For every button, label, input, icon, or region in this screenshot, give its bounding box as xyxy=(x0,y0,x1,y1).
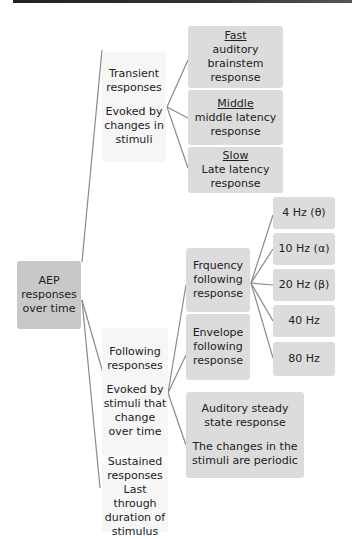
slow-label: Late latency response xyxy=(192,163,280,191)
freq-40hz-label: 40 Hz xyxy=(288,314,320,328)
slow-node: Slow Late latency response xyxy=(188,147,283,193)
middle-node: Middle middle latency response xyxy=(188,90,283,145)
freq-40hz: 40 Hz xyxy=(273,305,335,337)
freq-80hz-label: 80 Hz xyxy=(288,352,320,366)
freq-4hz-label: 4 Hz (θ) xyxy=(282,206,325,220)
following-title: Following responses xyxy=(102,345,168,373)
freq-4hz: 4 Hz (θ) xyxy=(273,197,335,229)
transient-title: Transient responses xyxy=(102,67,166,95)
freq-20hz-label: 20 Hz (β) xyxy=(279,278,330,292)
envelope-following-label: Envelope following response xyxy=(186,326,250,368)
sustained-description: Last through duration of stimulus xyxy=(102,483,168,539)
envelope-following-node: Envelope following response xyxy=(186,314,250,380)
freq-80hz: 80 Hz xyxy=(273,342,335,376)
slow-heading: Slow xyxy=(223,149,249,163)
freq-10hz: 10 Hz (α) xyxy=(273,233,335,265)
middle-heading: Middle xyxy=(217,97,253,111)
middle-label: middle latency response xyxy=(192,111,280,139)
fast-heading: Fast xyxy=(224,29,246,43)
sustained-title: Sustained responses xyxy=(102,455,168,483)
following-description: Evoked by stimuli that change over time xyxy=(102,383,168,439)
root-node: AEP responses over time xyxy=(17,261,81,329)
transient-description: Evoked by changes in stimuli xyxy=(102,105,166,147)
assr-node: Auditory steady state response The chang… xyxy=(186,392,304,478)
frequency-following-node: Frquency following response xyxy=(186,248,250,312)
root-label: AEP responses over time xyxy=(17,274,81,316)
following-node: Following responses Evoked by stimuli th… xyxy=(102,328,168,456)
freq-10hz-label: 10 Hz (α) xyxy=(279,242,330,256)
fast-label: auditory brainstem response xyxy=(201,43,271,85)
sustained-node: Sustained responses Last through duratio… xyxy=(102,462,168,532)
assr-description: The changes in the stimuli are periodic xyxy=(190,440,300,468)
assr-label: Auditory steady state response xyxy=(190,402,300,430)
frequency-following-label: Frquency following response xyxy=(186,259,250,301)
freq-20hz: 20 Hz (β) xyxy=(273,269,335,301)
transient-node: Transient responses Evoked by changes in… xyxy=(102,52,166,162)
fast-node: Fast auditory brainstem response xyxy=(188,26,283,88)
